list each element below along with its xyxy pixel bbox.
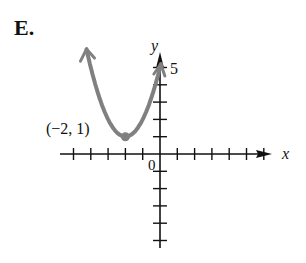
origin-label: 0 xyxy=(148,157,156,173)
x-axis-label: x xyxy=(281,145,289,162)
axes xyxy=(60,52,272,248)
coordinate-plane: x y 0 5 (−2, 1) xyxy=(0,0,306,263)
parabola-curve xyxy=(80,49,164,141)
y-axis-label: y xyxy=(149,37,159,55)
vertex-label: (−2, 1) xyxy=(46,120,90,138)
y-tick-label-5: 5 xyxy=(170,60,178,77)
